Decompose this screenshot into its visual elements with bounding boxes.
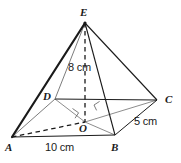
vertex-label-E: E bbox=[80, 7, 87, 18]
vertex-label-A: A bbox=[5, 142, 12, 153]
vertex-label-C: C bbox=[165, 94, 172, 105]
measure-label-base-bc: 5 cm bbox=[134, 116, 157, 127]
edge-OB bbox=[85, 122, 115, 135]
vertex-label-D: D bbox=[43, 91, 51, 102]
measure-label-height: 8 cm bbox=[68, 62, 91, 73]
edge-EA bbox=[12, 23, 85, 137]
edge-AB bbox=[12, 135, 115, 137]
right-angle-marker-db bbox=[94, 101, 100, 110]
measure-label-base-ab: 10 cm bbox=[45, 142, 74, 153]
geometry-figure: E D C A B O 8 cm 10 cm 5 cm bbox=[0, 0, 181, 163]
pyramid-drawing bbox=[0, 0, 181, 163]
edge-AO-dashed bbox=[12, 122, 85, 137]
edge-DO bbox=[55, 99, 85, 122]
apex-vertex-dot bbox=[83, 21, 86, 24]
vertex-label-B: B bbox=[111, 142, 118, 153]
vertex-label-O: O bbox=[79, 123, 87, 134]
